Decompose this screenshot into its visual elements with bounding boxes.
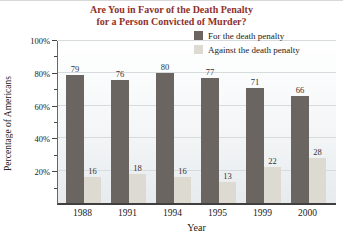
legend-label: Against the death penalty (208, 45, 300, 55)
bar-value-label: 80 (152, 62, 178, 72)
y-tick-label: 60% (22, 102, 52, 112)
x-tick-label: 1988 (63, 208, 103, 218)
x-axis-title: Year (57, 222, 336, 233)
y-axis-title-wrap: Percentage of Americans (1, 41, 14, 205)
bar-value-label: 16 (80, 166, 105, 176)
bar-group: 7916 (66, 41, 101, 203)
x-tick-label: 2000 (288, 208, 328, 218)
bar-for: 77 (201, 78, 219, 203)
bar-against: 18 (129, 174, 146, 203)
y-axis-title: Percentage of Americans (3, 76, 13, 171)
legend-item: For the death penalty (194, 29, 300, 42)
plot-area: 791676188016771371226628 (57, 41, 336, 205)
bar-value-label: 28 (305, 147, 330, 157)
y-tick-label: 100% (22, 36, 52, 46)
bar-group: 7122 (246, 41, 281, 203)
bar-value-label: 71 (242, 77, 268, 87)
bar-for: 71 (246, 88, 264, 203)
bar-value-label: 77 (197, 67, 223, 77)
bar-for: 79 (66, 75, 84, 203)
y-tick-label: 20% (22, 167, 52, 177)
chart-title-line1: Are You in Favor of the Death Penalty (0, 4, 343, 16)
x-tick-label: 1991 (108, 208, 148, 218)
bar-against: 28 (309, 158, 326, 203)
bar-value-label: 18 (125, 163, 150, 173)
bar-group: 6628 (291, 41, 326, 203)
bar-value-label: 22 (260, 156, 285, 166)
bar-chart-figure: Are You in Favor of the Death Penalty fo… (0, 0, 343, 240)
y-tick-label: 40% (22, 134, 52, 144)
legend-swatch (194, 45, 203, 54)
legend-item: Against the death penalty (194, 43, 300, 56)
bar-value-label: 76 (107, 69, 133, 79)
bar-group: 8016 (156, 41, 191, 203)
bar-for: 76 (111, 80, 129, 203)
bar-against: 22 (264, 167, 281, 203)
x-tick-label: 1994 (153, 208, 193, 218)
bar-value-label: 13 (215, 171, 240, 181)
legend-swatch (194, 31, 203, 40)
bar-against: 16 (84, 177, 101, 203)
bar-for: 80 (156, 73, 174, 203)
chart-title: Are You in Favor of the Death Penalty fo… (0, 4, 343, 27)
x-tick-label: 1995 (198, 208, 238, 218)
legend-label: For the death penalty (208, 31, 284, 41)
bar-value-label: 66 (287, 85, 313, 95)
x-tick-label: 1999 (243, 208, 283, 218)
y-tick-label: 80% (22, 69, 52, 79)
bar-value-label: 16 (170, 166, 195, 176)
chart-title-line2: for a Person Convicted of Murder? (0, 16, 343, 28)
y-axis-tick-labels: 20%40%60%80%100% (22, 41, 52, 205)
bar-group: 7713 (201, 41, 236, 203)
bar-against: 16 (174, 177, 191, 203)
x-axis-tick-labels: 198819911994199519992000 (0, 208, 343, 220)
bar-value-label: 79 (62, 64, 88, 74)
bar-against: 13 (219, 182, 236, 203)
bar-group: 7618 (111, 41, 146, 203)
legend: For the death penaltyAgainst the death p… (194, 29, 300, 57)
